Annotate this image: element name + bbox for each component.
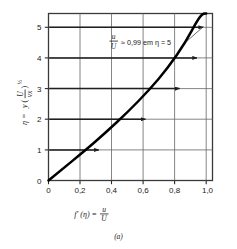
y-axis-title-denominator: νx [25,90,34,97]
annotation-fraction-denominator: U [111,42,117,51]
y-axis-title-variable: y [20,104,29,109]
x-tick-label-0: 0 [46,186,51,195]
y-axis-title-numerator: U [16,91,25,97]
annotation-rest-text: ≈ 0,99 em η = 5 [121,38,171,47]
y-axis-title-lead: η = [20,114,29,125]
x-tick-label-4: 0,8 [169,186,181,195]
y-tick-label-0: 0 [37,177,42,186]
y-tick-label-3: 3 [37,85,42,94]
chart-background [0,0,237,249]
y-axis-title-paren-close: ) [20,86,29,89]
y-tick-label-4: 4 [37,54,42,63]
y-tick-label-5: 5 [37,23,42,32]
blasius-profile-chart: 0 0,2 0,4 0,6 0,8 1,0 0 1 2 3 4 5 [0,0,237,249]
y-tick-label-1: 1 [37,146,42,155]
y-axis-title-paren-open: ( [20,100,29,103]
x-tick-label-3: 0,6 [138,186,150,195]
y-axis-title-exponent: ½ [17,80,23,84]
x-tick-label-2: 0,4 [106,186,118,195]
x-axis-title-lead: f′ (η) = [74,210,97,219]
x-axis-title-denominator: U [101,214,107,223]
x-tick-label-5: 1,0 [202,186,214,195]
x-tick-label-1: 0,2 [74,186,86,195]
x-axis-title-numerator: u [102,205,106,214]
annotation-fraction-numerator: u [112,32,116,41]
figure-container: 0 0,2 0,4 0,6 0,8 1,0 0 1 2 3 4 5 [0,0,237,249]
figure-caption: (a) [114,232,123,241]
y-tick-label-2: 2 [37,115,42,124]
